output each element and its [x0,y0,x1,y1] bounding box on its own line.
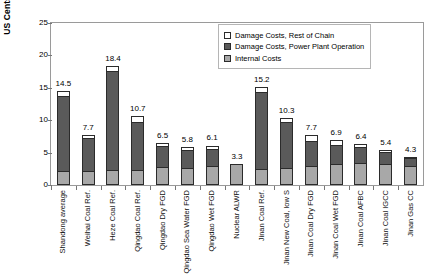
bar-segment [255,92,268,169]
x-axis-label: Qingdao Coal Ref. [134,190,142,252]
bar-segment [379,164,392,185]
stacked-bar[interactable] [255,87,268,185]
x-axis-label: Jinan Coal IGCC [382,190,390,246]
x-axis-label: Weihai Coal Ref. [84,190,92,246]
bar-baseline [131,184,144,185]
stacked-bar[interactable] [82,135,95,185]
bar-segment [131,122,144,171]
legend-item[interactable]: Damage Costs, Power Plant Operation [224,41,364,52]
legend-label: Internal Costs [235,54,281,63]
stacked-bar[interactable] [131,116,144,185]
x-axis-label: Jinan Gas CC [407,190,415,237]
bar-baseline [156,184,169,185]
y-axis-tick-label: 20 [0,55,48,64]
x-axis-label: Shandong average [59,190,67,253]
bar-baseline [305,184,318,185]
stacked-bar[interactable] [57,91,70,185]
bar-segment [305,141,318,166]
legend-label: Damage Costs, Power Plant Operation [235,42,364,51]
bar-slot: 18.4 [101,23,126,185]
bar-value-label: 6.9 [331,128,342,137]
x-axis-label-cell: Nuclear ALWR [225,190,250,275]
bar-slot: 7.7 [76,23,101,185]
bar-value-label: 6.4 [355,132,366,141]
stacked-bar[interactable] [206,146,219,186]
x-axis-label-cell: Shandong average [51,190,76,275]
stacked-bar[interactable] [404,157,417,185]
bar-segment [354,147,367,163]
bar-slot: 5.4 [373,23,398,185]
bar-baseline [230,184,243,185]
bar-segment [230,164,243,185]
bar-segment [404,158,417,165]
x-axis-label-cell: Qingdao Dry FGD [150,190,175,275]
x-axis-label-cell: Jinan New Coal, low S [274,190,299,275]
x-axis-label: Jinan Coal Wet FGD [332,190,340,259]
x-axis-label: Qingdao Sea Water FGD [183,190,191,274]
y-axis-tick-label: 5 [0,153,48,162]
stacked-bar[interactable] [305,135,318,185]
bar-baseline [354,184,367,185]
stacked-bar[interactable] [330,140,343,185]
bar-segment [106,71,119,170]
legend-swatch [224,43,231,50]
legend-swatch [224,55,231,62]
bar-value-label: 4.3 [405,145,416,154]
bar-slot: 5.8 [175,23,200,185]
stacked-bar[interactable] [280,118,293,185]
y-axis-tick-label: 10 [0,120,48,129]
bar-value-label: 5.8 [182,135,193,144]
bar-segment [404,166,417,185]
x-axis-label-cell: Jinan Coal Dry FGD [299,190,324,275]
stacked-bar[interactable] [156,143,169,185]
bar-baseline [255,184,268,185]
stacked-bar[interactable] [354,144,367,185]
x-axis-label: Jinan Coal AFBC [357,190,365,247]
x-axis-label: Nuclear ALWR [233,190,241,239]
bar-baseline [280,184,293,185]
bar-segment [181,150,194,168]
bar-value-label: 6.5 [157,131,168,140]
bar-baseline [206,184,219,185]
bar-baseline [181,184,194,185]
bar-segment [181,168,194,185]
x-axis-label: Jinan Coal Dry FGD [307,190,315,257]
bar-segment [305,166,318,185]
stacked-bar[interactable] [106,66,119,185]
x-axis-label-cell: Jinan Coal IGCC [373,190,398,275]
bar-slot: 6.5 [150,23,175,185]
x-axis-label: Qingdao Wet FGD [208,190,216,252]
bar-value-label: 15.2 [254,75,270,84]
bar-value-label: 18.4 [105,54,121,63]
stacked-bar[interactable] [181,147,194,185]
bar-value-label: 14.5 [56,79,72,88]
bar-segment [255,169,268,185]
bar-segment [131,170,144,185]
bar-baseline [106,184,119,185]
x-axis-label-cell: Jinan Coal Ref. [249,190,274,275]
bar-segment [379,152,392,164]
bar-baseline [57,184,70,185]
bar-segment [82,138,95,171]
bar-value-label: 10.7 [130,104,146,113]
bar-segment [330,145,343,164]
bar-baseline [379,184,392,185]
x-axis-label-cell: Jinan Coal AFBC [349,190,374,275]
x-axis-label: Heze Coal Ref. [109,190,117,241]
x-axis-label-cell: Qingdao Sea Water FGD [175,190,200,275]
bar-segment [82,171,95,185]
legend-item[interactable]: Internal Costs [224,53,364,64]
bar-segment [106,170,119,185]
bar-segment [330,164,343,185]
stacked-bar[interactable] [379,150,392,185]
bar-value-label: 3.3 [231,152,242,161]
legend-swatch [224,32,231,39]
legend-item[interactable]: Damage Costs, Rest of Chain [224,30,364,41]
bar-segment [354,163,367,185]
stacked-bar[interactable] [230,164,243,185]
x-axis-label-cell: Heze Coal Ref. [101,190,126,275]
bar-value-label: 10.3 [279,106,295,115]
x-axis-labels: Shandong averageWeihai Coal Ref.Heze Coa… [51,190,423,275]
chart-legend: Damage Costs, Rest of ChainDamage Costs,… [218,24,371,69]
bar-segment [280,122,293,168]
